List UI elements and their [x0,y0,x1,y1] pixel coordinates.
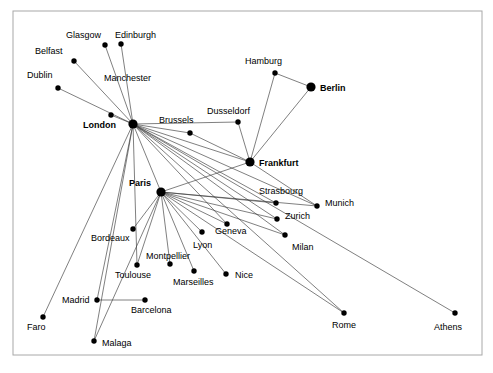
city-node-lyon[interactable] [199,229,204,234]
city-node-malaga[interactable] [91,338,96,343]
city-label-brussels: Brussels [159,115,194,125]
city-label-geneva: Geneva [215,226,247,236]
city-label-dublin: Dublin [27,70,53,80]
city-label-malaga: Malaga [102,338,132,348]
city-node-milan[interactable] [282,232,287,237]
city-label-paris: Paris [129,178,151,188]
city-label-toulouse: Toulouse [115,270,151,280]
city-node-manchester[interactable] [108,112,113,117]
city-label-marseilles: Marseilles [173,277,214,287]
city-label-berlin: Berlin [320,83,346,93]
city-label-frankfurt: Frankfurt [259,158,299,168]
city-node-dublin[interactable] [55,85,60,90]
city-node-athens[interactable] [452,310,457,315]
city-label-manchester: Manchester [104,73,151,83]
city-node-toulouse[interactable] [134,262,139,267]
city-label-barcelona: Barcelona [131,305,172,315]
city-label-lyon: Lyon [193,240,212,250]
city-node-london[interactable] [128,119,137,128]
city-label-strasbourg: Strasbourg [259,186,303,196]
city-label-milan: Milan [292,242,314,252]
city-label-rome: Rome [332,320,356,330]
city-label-glasgow: Glasgow [66,30,102,40]
city-label-athens: Athens [434,322,463,332]
city-label-madrid: Madrid [62,295,90,305]
city-node-barcelona[interactable] [142,297,147,302]
city-node-rome[interactable] [341,310,346,315]
city-node-munich[interactable] [314,203,319,208]
city-label-london: London [83,120,116,130]
city-node-marseilles[interactable] [191,268,196,273]
city-label-belfast: Belfast [35,46,63,56]
city-label-nice: Nice [235,270,253,280]
city-label-faro: Faro [27,322,46,332]
city-node-madrid[interactable] [94,297,99,302]
city-node-strasbourg[interactable] [273,200,278,205]
city-node-zurich[interactable] [274,216,279,221]
city-node-belfast[interactable] [71,58,76,63]
city-node-glasgow[interactable] [102,42,107,47]
city-node-dusseldorf[interactable] [235,119,240,124]
city-label-edinburgh: Edinburgh [115,30,156,40]
network-diagram-canvas: GlasgowEdinburghBelfastDublinManchesterL… [0,0,493,373]
city-label-bordeaux: Bordeaux [91,233,130,243]
city-node-paris[interactable] [156,187,165,196]
city-label-montpellier: Montpellier [146,251,190,261]
city-node-bordeaux[interactable] [130,226,135,231]
city-node-edinburgh[interactable] [118,41,123,46]
city-node-brussels[interactable] [187,130,192,135]
city-node-hamburg[interactable] [272,70,277,75]
city-node-nice[interactable] [223,271,228,276]
city-label-hamburg: Hamburg [245,56,282,66]
city-label-dusseldorf: Dusseldorf [207,106,251,116]
network-graph: GlasgowEdinburghBelfastDublinManchesterL… [0,0,493,373]
city-label-zurich: Zurich [285,211,310,221]
city-node-montpellier[interactable] [167,261,172,266]
city-node-faro[interactable] [40,314,45,319]
city-label-munich: Munich [325,198,354,208]
city-node-frankfurt[interactable] [245,157,254,166]
city-node-berlin[interactable] [306,82,315,91]
